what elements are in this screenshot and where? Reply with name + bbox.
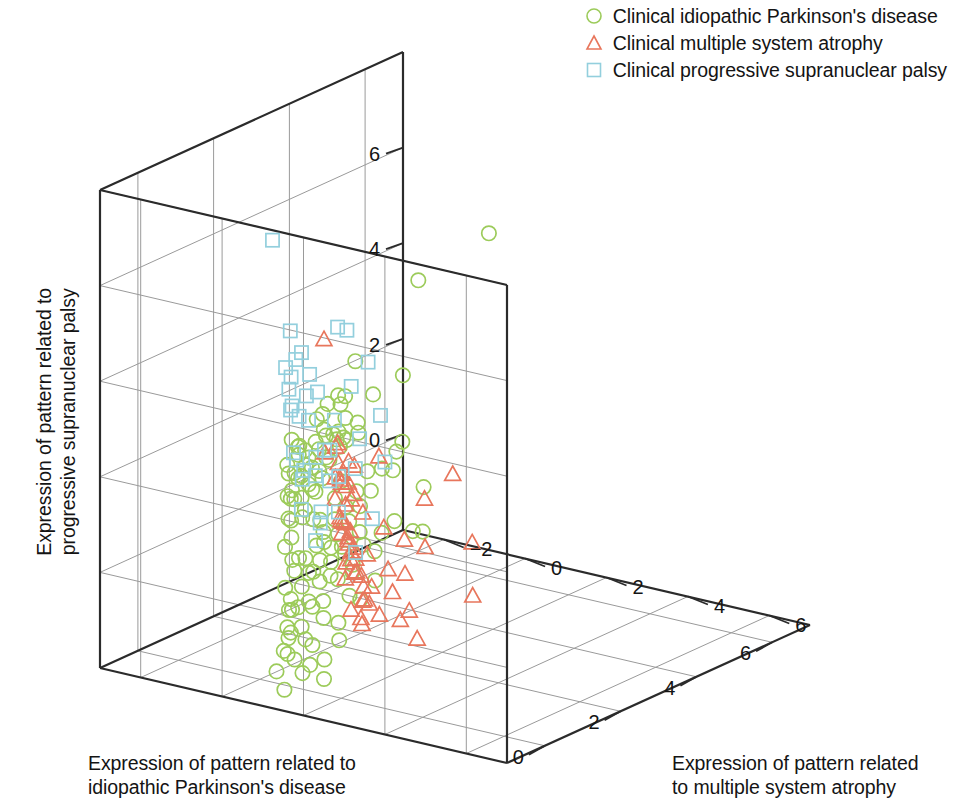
x-axis-label-line1: Expression of pattern related to [88,752,418,776]
triangle-marker-icon [584,33,604,53]
tick-label-z: 4 [714,595,725,617]
legend-item-msa[interactable]: Clinical multiple system atrophy [584,31,947,55]
x-axis-label: Expression of pattern related to idiopat… [88,752,418,800]
tick-label-x: 4 [664,677,675,699]
y-axis-label-line1: Expression of pattern related to [33,212,57,632]
tick-label-z: −2 [470,538,493,560]
legend-label-msa: Clinical multiple system atrophy [613,32,883,55]
tick-label-z: 0 [551,557,562,579]
tick-label-y: 2 [369,334,380,356]
tick-label-y: 6 [369,143,380,165]
legend-item-ipd[interactable]: Clinical idiopathic Parkinson's disease [584,4,947,28]
y-axis-label-line2: progressive supranuclear palsy [57,212,81,632]
chart-canvas: 02466420−20246 Clinical idiopathic Parki… [0,0,955,812]
z-axis-label: Expression of pattern related to multipl… [672,752,952,800]
legend: Clinical idiopathic Parkinson's disease … [584,4,947,82]
z-axis-label-line1: Expression of pattern related [672,752,952,776]
legend-label-psp: Clinical progressive supranuclear palsy [613,59,947,82]
tick-label-x: 2 [588,711,599,733]
x-axis-label-line2: idiopathic Parkinson's disease [88,776,418,800]
panel-walls [100,52,810,763]
square-marker-icon [584,60,604,80]
tick-label-x: 0 [513,746,524,768]
tick-label-x: 6 [740,642,751,664]
data-point-circle [482,226,496,240]
z-axis-label-line2: to multiple system atrophy [672,776,952,800]
scatter-plot-3d: 02466420−20246 [0,0,955,812]
tick-label-z: 2 [633,576,644,598]
y-axis-label: Expression of pattern related to progres… [33,212,81,632]
tick-label-y: 0 [369,429,380,451]
tick-label-y: 4 [369,238,380,260]
circle-marker-icon [584,6,604,26]
tick-label-z: 6 [795,614,806,636]
legend-item-psp[interactable]: Clinical progressive supranuclear palsy [584,58,947,82]
legend-label-ipd: Clinical idiopathic Parkinson's disease [613,5,938,28]
